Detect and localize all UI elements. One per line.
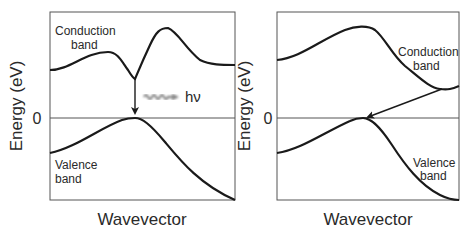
conduction-band-label-line2: band — [413, 59, 440, 73]
zero-tick-label: 0 — [33, 110, 42, 127]
photon-label: hν — [185, 88, 201, 105]
valence-band-label-line1: Valence — [55, 158, 98, 172]
conduction-band-label-line1: Conduction — [398, 45, 459, 59]
panel-indirect: Conduction band Valence band 0 Energy (e… — [235, 12, 459, 229]
conduction-band-label-line1: Conduction — [55, 24, 116, 38]
valence-band-label-line2: band — [55, 172, 82, 186]
y-axis-label: Energy (eV) — [7, 61, 26, 152]
indirect-transition-arrow — [368, 89, 442, 117]
valence-band-label-line1: Valence — [413, 156, 456, 170]
zero-tick-label: 0 — [264, 110, 273, 127]
x-axis-label: Wavevector — [323, 210, 412, 229]
band-diagram: hν Conduction band Valence band 0 Energy… — [0, 0, 472, 239]
photon-wave-icon — [144, 95, 177, 99]
y-axis-label: Energy (eV) — [235, 61, 254, 152]
x-axis-label: Wavevector — [97, 210, 186, 229]
panel-direct: hν Conduction band Valence band 0 Energy… — [7, 12, 235, 229]
valence-band-label-line2: band — [420, 169, 447, 183]
conduction-band-label-line2: band — [71, 38, 98, 52]
